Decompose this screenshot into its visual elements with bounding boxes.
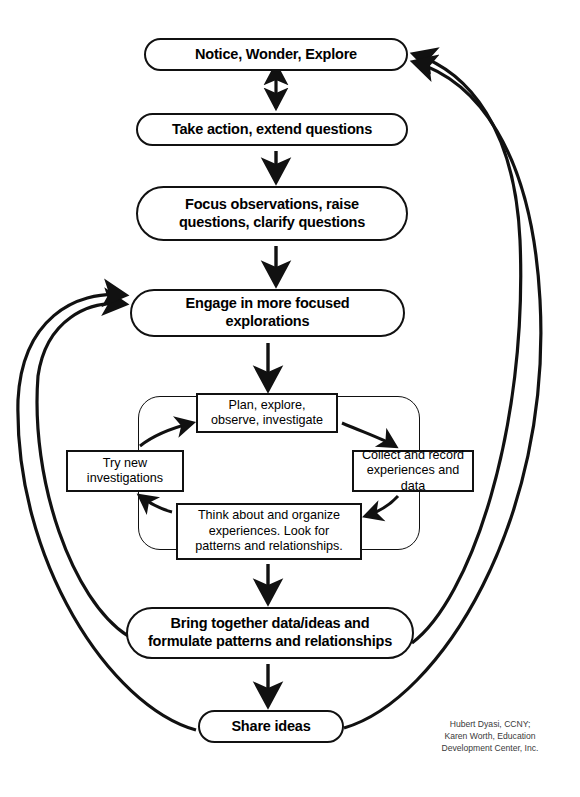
node-label-line1: Think about and organize — [198, 508, 340, 522]
credit-line-3: Development Center, Inc. — [410, 742, 570, 754]
node-label: Collect and record experiences and data — [354, 448, 472, 494]
node-think-about-organize[interactable]: Think about and organize experiences. Lo… — [176, 503, 362, 560]
node-label-line1: Collect and record — [362, 448, 464, 462]
node-notice-wonder-explore[interactable]: Notice, Wonder, Explore — [144, 38, 408, 71]
node-label: Focus observations, raise questions, cla… — [179, 196, 365, 231]
node-try-new-investigations[interactable]: Try new investigations — [66, 450, 184, 492]
credit-line-1: Hubert Dyasi, CCNY; — [410, 718, 570, 730]
node-label-line1: Bring together data/ideas and — [171, 615, 370, 631]
node-label-line2: experiences. Look for — [209, 524, 329, 538]
node-label-line3: patterns and relationships. — [195, 539, 343, 553]
node-take-action[interactable]: Take action, extend questions — [136, 113, 408, 146]
node-label: Bring together data/ideas and formulate … — [148, 615, 392, 650]
node-label: Share ideas — [231, 718, 310, 736]
node-label-line2: investigations — [87, 471, 163, 485]
node-collect-and-record[interactable]: Collect and record experiences and data — [352, 450, 474, 492]
node-bring-together-data[interactable]: Bring together data/ideas and formulate … — [126, 607, 414, 659]
node-label-line1: Focus observations, raise — [185, 196, 359, 212]
node-label-line1: Engage in more focused — [186, 295, 350, 311]
node-label: Notice, Wonder, Explore — [195, 46, 357, 64]
node-label: Plan, explore, observe, investigate — [211, 398, 323, 429]
node-label: Take action, extend questions — [172, 121, 372, 139]
node-engage-explorations[interactable]: Engage in more focused explorations — [130, 289, 405, 337]
node-label-line1: Plan, explore, — [228, 398, 305, 412]
node-label-line1: Try new — [103, 456, 147, 470]
node-label-line2: observe, investigate — [211, 413, 323, 427]
node-focus-observations[interactable]: Focus observations, raise questions, cla… — [136, 186, 408, 241]
node-plan-explore[interactable]: Plan, explore, observe, investigate — [196, 393, 338, 433]
credit-line-2: Karen Worth, Education — [410, 730, 570, 742]
node-label: Try new investigations — [87, 456, 163, 487]
credit-attribution: Hubert Dyasi, CCNY; Karen Worth, Educati… — [410, 718, 570, 755]
diagram-canvas: Notice, Wonder, Explore Take action, ext… — [0, 0, 580, 797]
node-label: Think about and organize experiences. Lo… — [195, 508, 343, 554]
node-label-line2: experiences and data — [367, 463, 459, 492]
node-share-ideas[interactable]: Share ideas — [198, 710, 344, 743]
node-label-line2: questions, clarify questions — [179, 214, 365, 230]
node-label-line2: explorations — [226, 313, 310, 329]
node-label: Engage in more focused explorations — [186, 295, 350, 330]
node-label-line2: formulate patterns and relationships — [148, 633, 392, 649]
